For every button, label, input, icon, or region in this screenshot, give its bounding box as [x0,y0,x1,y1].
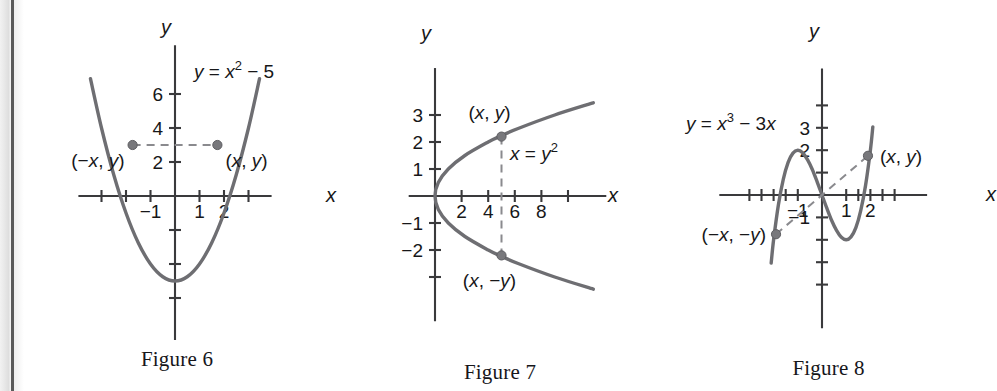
figure-8-y-tick-label: 3 [799,118,810,139]
figure-7-caption: Figure 7 [340,360,660,385]
figure-6-y-axis-label: y [159,16,172,38]
figure-8-point-label: (x, y) [880,146,922,167]
figure-6-y-tick-label: 6 [152,84,163,105]
figure-8-panel: xy−112−123(x, y)(−x, −y)y = x3 − 3x Figu… [660,0,997,391]
figure-6-equation-label: y = x2 − 5 [192,58,274,82]
figure-7-point-marker [497,132,506,141]
figure-8-x-axis-label: x [985,183,997,205]
figure-sheet: xy−112246(−x, y)(x, y)y = x2 − 5 Figure … [0,0,997,391]
figure-6-x-tick-label: −1 [140,201,162,222]
figure-6-point-label: (−x, y) [71,150,124,171]
figure-7-panel: xy2468−2−1123(x, y)(x, −y)x = y2 Figure … [340,0,660,391]
figure-6-plot: xy−112246(−x, y)(x, y)y = x2 − 5 [14,0,340,344]
figure-6-point-marker [128,140,137,149]
figure-8-y-axis-label: y [807,20,820,42]
figure-7-y-tick-label: 3 [412,105,423,126]
figure-7-point-label: (x, −y) [463,270,516,291]
figure-7-plot: xy2468−2−1123(x, y)(x, −y)x = y2 [340,0,660,354]
figure-8-point-marker [771,230,780,239]
figure-6-y-tick-label: 2 [152,152,163,173]
figure-7-y-tick-label: 2 [412,132,423,153]
figure-8-point-marker [863,151,872,160]
figure-7-x-tick-label: 4 [483,201,494,222]
figure-8-caption: Figure 8 [660,356,997,381]
figure-7-y-tick-label: −1 [401,213,423,234]
figure-7-equation-label: x = y2 [509,140,558,164]
figure-8-x-tick-label: 2 [865,200,876,221]
figure-7-y-axis-label: y [419,22,432,44]
figure-7-x-tick-label: 6 [510,201,521,222]
figure-7-x-tick-label: 8 [536,201,547,222]
figure-8-x-tick-label: 1 [841,200,852,221]
figure-7-point-marker [497,251,506,260]
figure-7-point-label: (x, y) [468,102,510,123]
page-edge-artifact [0,0,11,391]
figure-7-x-axis-label: x [607,184,619,206]
figure-8-point-label: (−x, −y) [702,224,766,245]
figure-7-y-tick-label: −2 [401,240,423,261]
figure-6-point-label: (x, y) [225,150,267,171]
figure-6-caption: Figure 6 [14,347,340,372]
figure-6-y-tick-label: 4 [152,118,163,139]
figure-6-x-tick-label: 1 [194,201,205,222]
figure-7-y-tick-label: 1 [412,159,423,180]
figure-8-equation-label: y = x3 − 3x [684,110,777,134]
figure-6-panel: xy−112246(−x, y)(x, y)y = x2 − 5 Figure … [14,0,340,391]
figure-8-plot: xy−112−123(x, y)(−x, −y)y = x3 − 3x [660,0,997,349]
figure-6-x-axis-label: x [325,184,337,206]
figure-6-point-marker [213,140,222,149]
figure-7-x-tick-label: 2 [456,201,467,222]
figure-8-y-tick-label: −1 [788,207,810,228]
